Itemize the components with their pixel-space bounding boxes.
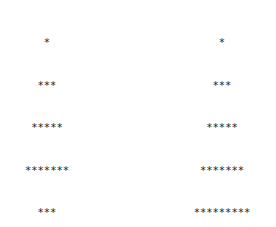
- tree-row: *******: [162, 163, 276, 177]
- tree-row: *: [162, 35, 276, 49]
- tree-row: *****: [162, 120, 276, 134]
- asterisk-tree-right: * *** ***** ******* ********* ***** ****…: [162, 7, 276, 227]
- tree-row: *******: [0, 163, 107, 177]
- tree-row: ***: [0, 205, 107, 219]
- tree-row: ***: [0, 78, 107, 92]
- tree-row: ***: [162, 78, 276, 92]
- tree-row: *********: [162, 205, 276, 219]
- tree-row: *****: [0, 120, 107, 134]
- asterisk-tree-left: * *** ***** ******* *** ***** ******* **…: [0, 7, 107, 227]
- tree-row: *: [0, 35, 107, 49]
